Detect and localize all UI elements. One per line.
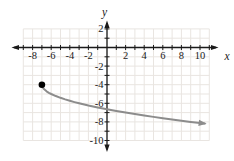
y-tick-label: -2 <box>95 61 104 72</box>
x-tick-label: -2 <box>84 50 93 61</box>
coordinate-plane: -8-6-4-22468102-2-4-6-8-10xy <box>0 0 234 161</box>
y-tick-label: -10 <box>90 135 104 146</box>
graph-figure: -8-6-4-22468102-2-4-6-8-10xy <box>0 0 234 161</box>
x-tick-label: 8 <box>179 50 184 61</box>
y-tick-label: -8 <box>95 116 104 127</box>
x-tick-label: 6 <box>160 50 165 61</box>
y-tick-label: -4 <box>95 79 104 90</box>
y-axis-down-arrow-icon <box>104 145 109 153</box>
x-tick-label: 10 <box>195 50 206 61</box>
x-axis-left-arrow-icon <box>12 45 20 50</box>
x-axis-right-arrow-icon <box>211 45 219 50</box>
curve-start-dot <box>39 81 46 88</box>
x-tick-label: -4 <box>65 50 74 61</box>
x-tick-label: -6 <box>47 50 56 61</box>
x-tick-label: 4 <box>142 50 148 61</box>
x-axis-label: x <box>223 50 230 62</box>
x-tick-label: -8 <box>28 50 37 61</box>
curve <box>42 85 205 124</box>
y-axis-label: y <box>101 6 108 19</box>
curve-arrow-icon <box>198 120 206 126</box>
y-axis-up-arrow-icon <box>104 21 109 29</box>
y-tick-label: 2 <box>98 23 103 34</box>
x-tick-label: 2 <box>123 50 128 61</box>
